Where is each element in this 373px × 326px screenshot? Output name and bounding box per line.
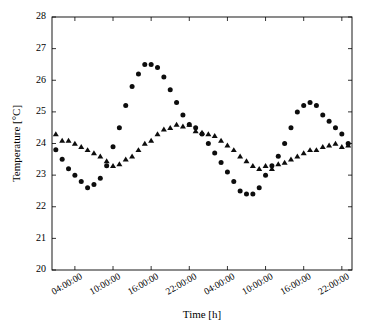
series-circles [53,62,350,197]
data-point-triangle [332,141,338,146]
data-point-triangle [288,157,294,162]
data-point-triangle [282,160,288,165]
data-point-triangle [174,122,180,127]
y-tick-label: 20 [36,263,46,274]
x-tick-label: 04:00:00 [202,271,236,297]
data-point-circle [174,100,179,105]
data-point-triangle [224,142,230,147]
x-tick-label: 10:00:00 [88,271,122,297]
data-point-triangle [313,147,319,152]
data-point-triangle [231,147,237,152]
data-point-triangle [129,153,135,158]
data-point-circle [104,163,109,168]
data-point-triangle [307,147,313,152]
y-tick-label: 28 [36,10,46,21]
data-point-circle [142,62,147,67]
data-point-circle [60,157,65,162]
y-tick-label: 26 [36,74,46,85]
data-point-triangle [72,141,78,146]
data-point-triangle [116,161,122,166]
data-point-triangle [339,144,345,149]
data-point-circle [225,169,230,174]
y-tick-label: 24 [36,137,46,148]
data-point-triangle [59,138,65,143]
data-point-triangle [78,144,84,149]
data-point-circle [314,103,319,108]
data-point-circle [180,113,185,118]
data-point-triangle [243,158,249,163]
x-tick-label: 04:00:00 [50,271,84,297]
data-point-triangle [167,125,173,130]
data-point-triangle [91,150,97,155]
data-point-triangle [142,141,148,146]
x-tick-label: 16:00:00 [126,271,160,297]
data-point-circle [219,160,224,165]
data-point-circle [301,103,306,108]
data-point-triangle [123,157,129,162]
data-point-circle [161,75,166,80]
data-point-circle [79,179,84,184]
data-point-triangle [275,161,281,166]
data-point-circle [327,119,332,124]
data-point-triangle [66,138,72,143]
data-point-circle [66,166,71,171]
data-point-circle [333,125,338,130]
plot-frame [52,17,352,270]
data-point-circle [136,71,141,76]
y-tick-label: 25 [36,105,46,116]
data-point-triangle [256,166,262,171]
data-point-triangle [294,153,300,158]
data-point-triangle [263,163,269,168]
data-point-circle [85,185,90,190]
data-point-circle [91,182,96,187]
data-point-circle [308,100,313,105]
data-point-circle [53,147,58,152]
data-point-triangle [180,123,186,128]
y-tick-label: 22 [36,200,46,211]
data-point-triangle [161,127,167,132]
data-point-circle [117,125,122,130]
data-point-circle [130,84,135,89]
chart-figure: 20212223242526272804:00:0010:00:0016:00:… [0,0,373,326]
series-triangles [53,122,351,171]
data-point-triangle [250,163,256,168]
data-point-triangle [53,131,59,136]
y-tick-label: 21 [36,232,46,243]
data-point-circle [168,87,173,92]
data-point-triangle [237,153,243,158]
data-point-triangle [110,163,116,168]
scatter-plot: 20212223242526272804:00:0010:00:0016:00:… [0,0,373,326]
data-point-triangle [97,153,103,158]
data-point-triangle [199,130,205,135]
data-point-triangle [218,138,224,143]
data-point-triangle [205,131,211,136]
y-tick-label: 27 [36,42,46,53]
data-point-circle [155,65,160,70]
data-point-circle [257,185,262,190]
data-point-circle [111,144,116,149]
data-point-circle [72,173,77,178]
data-point-triangle [155,131,161,136]
x-tick-label: 22:00:00 [164,271,198,297]
x-tick-label: 10:00:00 [240,271,274,297]
x-tick-label: 16:00:00 [278,271,312,297]
data-point-triangle [301,150,307,155]
data-point-circle [263,173,268,178]
data-point-circle [250,192,255,197]
x-tick-label: 22:00:00 [317,271,351,297]
data-point-circle [123,103,128,108]
data-point-circle [98,176,103,181]
data-point-triangle [104,158,110,163]
data-point-triangle [135,147,141,152]
data-point-triangle [148,138,154,143]
data-point-circle [339,132,344,137]
data-point-circle [212,150,217,155]
data-point-circle [238,188,243,193]
data-point-circle [231,179,236,184]
data-point-circle [276,154,281,159]
data-point-circle [282,141,287,146]
data-point-triangle [212,133,218,138]
data-point-triangle [326,142,332,147]
data-point-circle [149,62,154,67]
y-axis-title: Temperature [°C] [10,105,22,182]
